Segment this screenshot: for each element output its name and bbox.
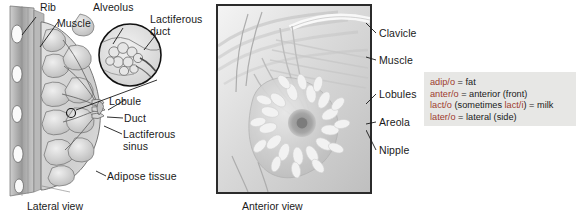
terminology-box: adip/o = fat anter/o = anterior (front) …	[424, 72, 576, 126]
label-lobules: Lobules	[379, 89, 416, 101]
leader-areola	[366, 122, 376, 124]
definition-text: (sometimes	[452, 100, 505, 110]
leader-adipose-tissue	[96, 171, 106, 176]
lateral-view-illustration: Rib Muscle Alveolus Lactiferous duct Lob…	[0, 0, 210, 200]
label-clavicle: Clavicle	[379, 28, 417, 40]
leader-lactiferous-sinus	[104, 126, 122, 134]
combining-form: later/o	[430, 112, 456, 122]
nipple-shape	[297, 118, 308, 129]
terminology-entry: adip/o = fat	[430, 77, 576, 89]
terminology-entry: anter/o = anterior (front)	[430, 89, 576, 101]
combining-form: lact/o	[430, 100, 452, 110]
label-muscle: Muscle	[57, 18, 91, 30]
label-rib: Rib	[40, 2, 56, 14]
label-areola: Areola	[379, 117, 410, 129]
label-lobule: Lobule	[109, 96, 141, 108]
caption-lateral-view: Lateral view	[27, 200, 83, 212]
anterior-view-panel	[216, 4, 372, 194]
label-muscle: Muscle	[379, 55, 413, 67]
label-adipose-tissue: Adipose tissue	[107, 171, 177, 183]
leader-nipple	[366, 130, 376, 150]
label-duct: Duct	[124, 113, 146, 125]
terminology-entry: lact/o (sometimes lact/i) = milk	[430, 100, 576, 112]
label-lactiferous-sinus: Lactiferous sinus	[123, 129, 175, 152]
figure-stage: Rib Muscle Alveolus Lactiferous duct Lob…	[0, 0, 576, 217]
label-lactiferous-duct: Lactiferous duct	[150, 14, 202, 37]
definition-text-cont: ) = milk	[523, 100, 553, 110]
label-alveolus: Alveolus	[93, 2, 134, 14]
leader-muscle	[366, 57, 376, 60]
leader-lobules	[366, 94, 376, 104]
label-nipple: Nipple	[379, 145, 409, 157]
leader-duct	[107, 117, 123, 118]
anterior-view-drawing	[218, 6, 370, 192]
combining-form: adip/o	[430, 77, 455, 87]
caption-anterior-view: Anterior view	[242, 200, 303, 212]
terminology-entry: later/o = lateral (side)	[430, 112, 576, 124]
combining-form: anter/o	[430, 89, 459, 99]
leader-clavicle	[366, 23, 376, 33]
lactiferous-sinus-shape	[92, 99, 105, 118]
definition-text: = fat	[455, 77, 476, 87]
combining-form-alt: lact/i	[505, 100, 524, 110]
definition-text: = lateral (side)	[456, 112, 517, 122]
definition-text: = anterior (front)	[459, 89, 528, 99]
